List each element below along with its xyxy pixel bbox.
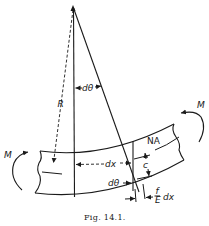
figure-caption: Fig. 14.1. — [84, 213, 126, 222]
strain-arrow-right — [146, 197, 153, 198]
beam-bending-diagram: dθ R NA dx dθ c f E dx M M Fig. 14.1. — [0, 0, 209, 226]
label-moment-left: M — [4, 150, 12, 160]
label-c: c — [143, 160, 148, 170]
radius-dashed-line — [54, 10, 74, 163]
label-moment-right: M — [197, 100, 205, 110]
beam-right-break — [173, 124, 184, 160]
label-dtheta-top: dθ — [82, 83, 94, 93]
neutral-axis-left-tick — [42, 172, 62, 174]
label-dx: dx — [105, 159, 117, 169]
moment-arrow-left — [13, 152, 28, 190]
c-dim-tick-top — [134, 155, 150, 159]
c-dim-arrow-up — [145, 153, 146, 159]
c-dim-arrow-down — [148, 169, 149, 176]
label-strain-E: E — [155, 195, 161, 205]
label-dtheta-bottom: dθ — [108, 178, 120, 188]
dtheta-arrow-right — [95, 86, 101, 87]
dx-dim-left — [76, 164, 104, 165]
label-neutral-axis: NA — [147, 136, 161, 146]
strain-arrow-left — [125, 199, 135, 200]
label-strain-dx: dx — [163, 192, 175, 202]
label-radius: R — [58, 99, 64, 109]
moment-arrow-right — [181, 112, 204, 142]
strain-extension-right — [143, 184, 145, 199]
beam-left-break — [35, 151, 41, 193]
strain-extension-left — [135, 189, 136, 202]
radial-line-vertical — [74, 8, 75, 197]
